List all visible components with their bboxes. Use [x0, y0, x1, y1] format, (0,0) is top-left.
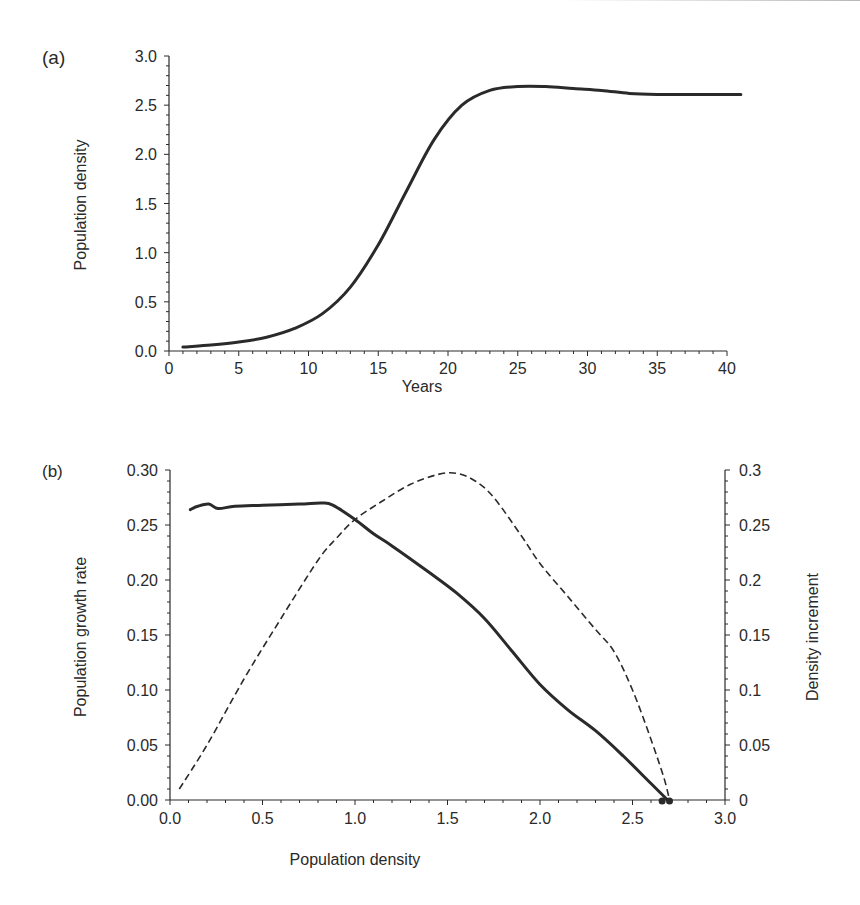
panel-b-x-tick-label: 1.5 — [436, 810, 458, 827]
panel-a-y-tick-label: 3.0 — [135, 48, 157, 65]
panel-b-right-y-axis-title: Density increment — [804, 572, 821, 701]
panel-b-left-y-tick-label: 0.25 — [127, 517, 158, 534]
panel-b-right-y-tick-label: 0.2 — [739, 572, 761, 589]
panel-b-left-y-tick-label: 0.00 — [127, 792, 158, 809]
panel-a-x-tick-label: 0 — [165, 360, 174, 377]
panel-a-x-tick-labels: 0510152025303540 — [165, 360, 736, 377]
panel-a-y-tick-label: 0.5 — [135, 294, 157, 311]
panel-a-x-tick-label: 5 — [234, 360, 243, 377]
panel-b-x-tick-label: 2.0 — [529, 810, 551, 827]
panel-a-y-tick-label: 2.5 — [135, 97, 157, 114]
panel-b-x-tick-label: 1.0 — [344, 810, 366, 827]
equilibrium-point-2-marker — [666, 798, 673, 805]
panel-b-right-y-tick-label: 0.25 — [739, 517, 770, 534]
panel-b-x-tick-label: 0.0 — [159, 810, 181, 827]
panel-a-y-tick-label: 2.0 — [135, 146, 157, 163]
panel-a-chart: (a) 0.00.51.01.52.02.53.0 05101520253035… — [42, 47, 741, 395]
panel-a-y-tick-label: 1.5 — [135, 196, 157, 213]
panel-a-x-tick-label: 20 — [439, 360, 457, 377]
equilibrium-point-1-marker — [659, 798, 666, 805]
panel-b-right-y-tick-label: 0.05 — [739, 737, 770, 754]
panel-a-axes — [164, 56, 727, 356]
panel-a-y-tick-labels: 0.00.51.01.52.02.53.0 — [135, 48, 157, 360]
panel-b-right-y-tick-label: 0.15 — [739, 627, 770, 644]
panel-b-growth-rate-curve — [190, 503, 667, 800]
panel-b-x-tick-label: 3.0 — [714, 810, 736, 827]
figure: (a) 0.00.51.01.52.02.53.0 05101520253035… — [0, 0, 860, 905]
panel-a-y-tick-label: 0.0 — [135, 343, 157, 360]
panel-b-x-tick-labels: 0.00.51.01.52.02.53.0 — [159, 810, 736, 827]
panel-b-left-y-tick-label: 0.30 — [127, 462, 158, 479]
panel-b-right-y-tick-label: 0.3 — [739, 462, 761, 479]
panel-b-label: (b) — [42, 462, 63, 481]
panel-b-left-y-tick-label: 0.05 — [127, 737, 158, 754]
panel-a-y-tick-label: 1.0 — [135, 245, 157, 262]
panel-a-y-axis-title: Population density — [72, 140, 89, 271]
panel-b-right-y-tick-labels: 00.050.10.150.20.250.3 — [739, 462, 770, 809]
panel-a-label: (a) — [42, 47, 65, 68]
panel-b-left-y-tick-label: 0.20 — [127, 572, 158, 589]
panel-b-left-y-tick-label: 0.10 — [127, 682, 158, 699]
panel-b-chart: (b) 0.000.050.100.150.200.250.30 00.050.… — [42, 462, 821, 868]
panel-b-x-axis-title: Population density — [290, 851, 421, 868]
panel-a-x-axis-title: Years — [402, 378, 442, 395]
panel-b-left-y-tick-labels: 0.000.050.100.150.200.250.30 — [127, 462, 158, 809]
panel-a-x-tick-label: 40 — [718, 360, 736, 377]
panel-a-density-curve — [183, 86, 741, 347]
panel-a-x-tick-label: 25 — [509, 360, 527, 377]
panel-b-density-increment-curve — [179, 473, 669, 800]
panel-a-x-tick-label: 30 — [579, 360, 597, 377]
panel-b-right-y-tick-label: 0.1 — [739, 682, 761, 699]
panel-a-x-tick-label: 15 — [369, 360, 387, 377]
panel-b-left-y-axis-title: Population growth rate — [72, 557, 89, 717]
panel-b-left-y-tick-label: 0.15 — [127, 627, 158, 644]
panel-b-axes — [165, 470, 730, 805]
panel-b-x-tick-label: 0.5 — [251, 810, 273, 827]
panel-a-x-tick-label: 10 — [300, 360, 318, 377]
panel-b-right-y-tick-label: 0 — [739, 792, 748, 809]
panel-b-x-tick-label: 2.5 — [621, 810, 643, 827]
panel-a-x-tick-label: 35 — [648, 360, 666, 377]
